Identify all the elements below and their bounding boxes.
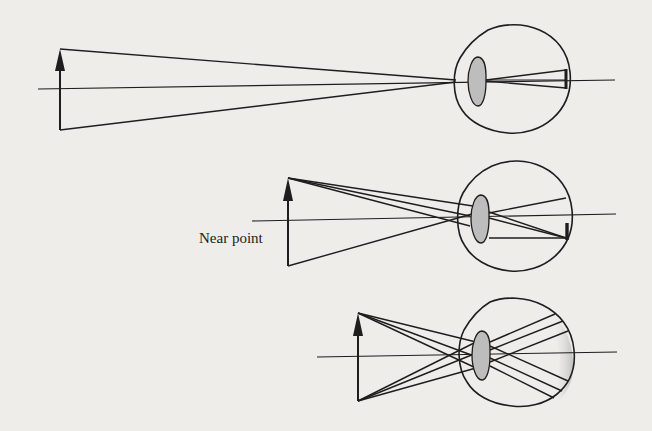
lens [471,195,489,243]
ray [358,342,476,401]
eye-ray-diagram [0,0,652,431]
object-arrow-head-icon [283,178,293,201]
object-arrow-head-icon [353,313,363,336]
ray [486,81,566,88]
ray [489,218,566,238]
object-arrow-head-icon [55,49,65,71]
ray [358,313,476,342]
ray [288,178,470,216]
optical-axis [252,214,616,221]
panel-distant-object [38,25,615,134]
ray [486,70,566,80]
near-point-label: Near point [199,230,263,247]
ray [490,321,563,350]
ray [358,313,474,356]
ray [490,358,562,391]
ray [60,49,456,80]
lens [468,57,486,106]
ray [358,354,474,401]
ray [490,331,568,362]
ray [489,198,566,213]
ray [288,214,472,266]
panel-too-close-object [317,298,617,406]
ray [60,82,456,130]
lens [472,331,490,380]
panel-near-point-object [252,161,616,271]
ray [358,368,476,401]
